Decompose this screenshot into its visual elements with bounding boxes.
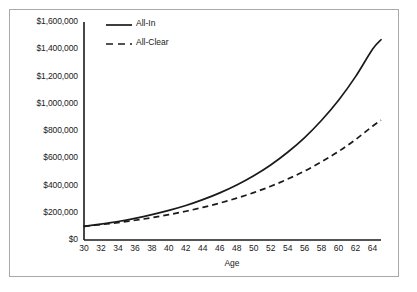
- x-axis-tick-label: 60: [331, 243, 347, 253]
- x-axis-tick-label: 40: [161, 243, 177, 253]
- legend-item-all-clear: All-Clear: [106, 37, 216, 56]
- x-axis-title: Age: [84, 258, 380, 268]
- legend-sample-solid-icon: [106, 24, 132, 26]
- chart-figure: $0$200,000$400,000$600,000$800,000$1,000…: [0, 0, 417, 292]
- x-axis-tick-label: 30: [76, 243, 92, 253]
- legend-sample-dashed-icon: [106, 43, 132, 45]
- x-axis-tick-label: 36: [127, 243, 143, 253]
- x-axis-tick-label: 32: [93, 243, 109, 253]
- legend-label-all-in: All-In: [136, 18, 155, 28]
- x-axis-tick-label: 44: [195, 243, 211, 253]
- x-axis-tick-label: 58: [314, 243, 330, 253]
- x-axis-tick-label: 48: [229, 243, 245, 253]
- series-lines: [84, 40, 381, 227]
- x-axis-tick-label: 54: [280, 243, 296, 253]
- series-line-all-clear: [84, 120, 381, 226]
- x-axis-tick-label: 34: [110, 243, 126, 253]
- series-line-all-in: [84, 40, 381, 227]
- x-axis-tick-label: 50: [246, 243, 262, 253]
- x-axis-tick-label: 42: [178, 243, 194, 253]
- x-axis-tick-label: 38: [144, 243, 160, 253]
- chart-legend: All-In All-Clear: [106, 18, 216, 56]
- x-axis-tick-label: 64: [365, 243, 381, 253]
- x-axis-tick-label: 62: [348, 243, 364, 253]
- x-axis-tick-labels: 303234363840424446485052545658606264: [84, 243, 380, 257]
- x-axis-tick-label: 56: [297, 243, 313, 253]
- legend-item-all-in: All-In: [106, 18, 216, 37]
- x-axis-tick-label: 46: [212, 243, 228, 253]
- legend-label-all-clear: All-Clear: [136, 37, 169, 47]
- x-axis-tick-label: 52: [263, 243, 279, 253]
